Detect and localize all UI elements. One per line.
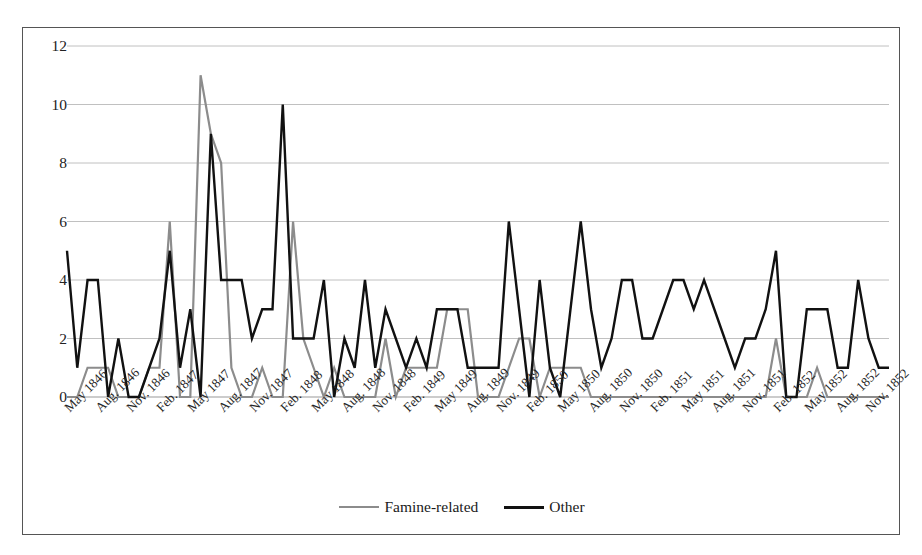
y-axis-tick-labels: 024681012	[31, 28, 67, 536]
legend-label-other: Other	[549, 498, 584, 516]
chart-figure: 024681012 May 1846Aug. 1846Nov. 1846Feb.…	[22, 27, 900, 535]
legend-label-famine-related: Famine-related	[384, 498, 478, 516]
legend-swatch-other	[504, 506, 544, 509]
series-line-famine-related	[67, 75, 889, 397]
y-tick-label-10: 10	[37, 97, 67, 113]
y-tick-label-2: 2	[37, 331, 67, 347]
chart-plot-area: 024681012 May 1846Aug. 1846Nov. 1846Feb.…	[23, 28, 901, 536]
y-tick-label-8: 8	[37, 155, 67, 171]
line-chart-svg	[23, 28, 901, 536]
legend-item-famine-related: Famine-related	[339, 498, 478, 516]
y-tick-label-0: 0	[37, 389, 67, 405]
legend-swatch-famine-related	[339, 506, 379, 508]
y-tick-label-12: 12	[37, 38, 67, 54]
legend-item-other: Other	[504, 498, 584, 516]
y-tick-label-6: 6	[37, 214, 67, 230]
series-line-other	[67, 105, 889, 398]
y-tick-label-4: 4	[37, 272, 67, 288]
chart-legend: Famine-related Other	[23, 498, 901, 516]
